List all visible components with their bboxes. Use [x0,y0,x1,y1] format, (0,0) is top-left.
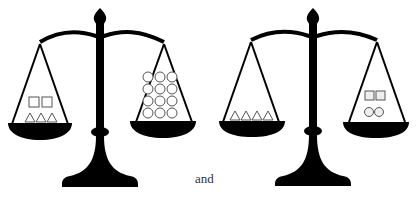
circle-shape [155,84,165,94]
circle-shape [167,108,177,118]
circle-shape [167,72,177,82]
left-pan [219,42,285,137]
triangle-shape [36,113,46,122]
circle-shape [143,96,153,106]
triangle-shape [230,111,240,120]
triangle-shape [241,111,251,120]
circle-shape [143,84,153,94]
triangle-shape [25,113,35,122]
circle-shape [155,72,165,82]
square-shape [29,97,39,107]
left-pan-items [25,97,57,122]
left-pan-items [230,111,273,120]
circle-shape [375,108,384,117]
circle-shape [167,96,177,106]
right-pan-items [365,91,386,117]
square-shape [42,97,52,107]
triangle-shape [263,111,273,120]
circle-shape [143,72,153,82]
circle-shape [365,108,374,117]
circle-shape [167,84,177,94]
triangle-shape [252,111,262,120]
circle-shape [155,96,165,106]
triangle-shape [47,113,57,122]
right-pan [343,42,409,138]
balance-scale-1 [0,0,210,198]
circle-shape [143,108,153,118]
square-shape [365,91,374,100]
circle-shape [155,108,165,118]
square-shape [376,91,385,100]
balance-scale-2 [207,0,417,198]
left-pan [8,44,72,140]
right-pan-items [143,72,177,118]
